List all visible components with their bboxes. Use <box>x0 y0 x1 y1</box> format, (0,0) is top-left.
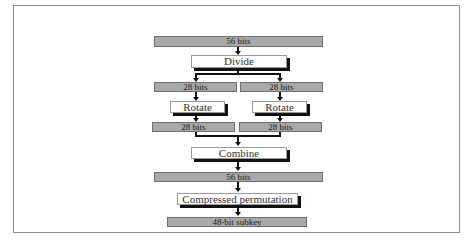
rotate-left-label: Rotate <box>171 102 224 112</box>
connector-divide-split <box>195 73 281 75</box>
right-rotated-label: 28 bits <box>240 123 321 132</box>
combine-box: Combine <box>191 147 287 159</box>
rotate-right-label: Rotate <box>253 102 306 112</box>
left-half-label: 28 bits <box>155 83 236 92</box>
left-half-28-bits-bar: 28 bits <box>154 82 237 92</box>
right-rotated-28-bits-bar: 28 bits <box>239 122 322 132</box>
combined-label: 56 bits <box>155 173 322 182</box>
left-rotated-28-bits-bar: 28 bits <box>152 122 235 132</box>
arrow-down-icon <box>235 188 241 192</box>
left-rotated-label: 28 bits <box>153 123 234 132</box>
combined-56-bits-bar: 56 bits <box>154 172 323 182</box>
output-48-bit-subkey-bar: 48-bit subkey <box>167 217 307 227</box>
divide-box: Divide <box>191 55 287 68</box>
rotate-left-box: Rotate <box>170 101 225 113</box>
arrow-down-icon <box>235 167 241 171</box>
rotate-right-box: Rotate <box>252 101 307 113</box>
compressed-permutation-label: Compressed permutation <box>178 194 297 204</box>
input-56-bits-label: 56 bits <box>155 37 322 46</box>
combine-label: Combine <box>192 148 286 158</box>
right-half-28-bits-bar: 28 bits <box>240 82 323 92</box>
input-56-bits-bar: 56 bits <box>154 36 323 47</box>
compressed-permutation-box: Compressed permutation <box>177 193 298 205</box>
output-subkey-label: 48-bit subkey <box>168 218 306 227</box>
arrow-down-icon <box>235 142 241 146</box>
divide-label: Divide <box>192 56 286 67</box>
right-half-label: 28 bits <box>241 83 322 92</box>
arrow-down-icon <box>235 212 241 216</box>
